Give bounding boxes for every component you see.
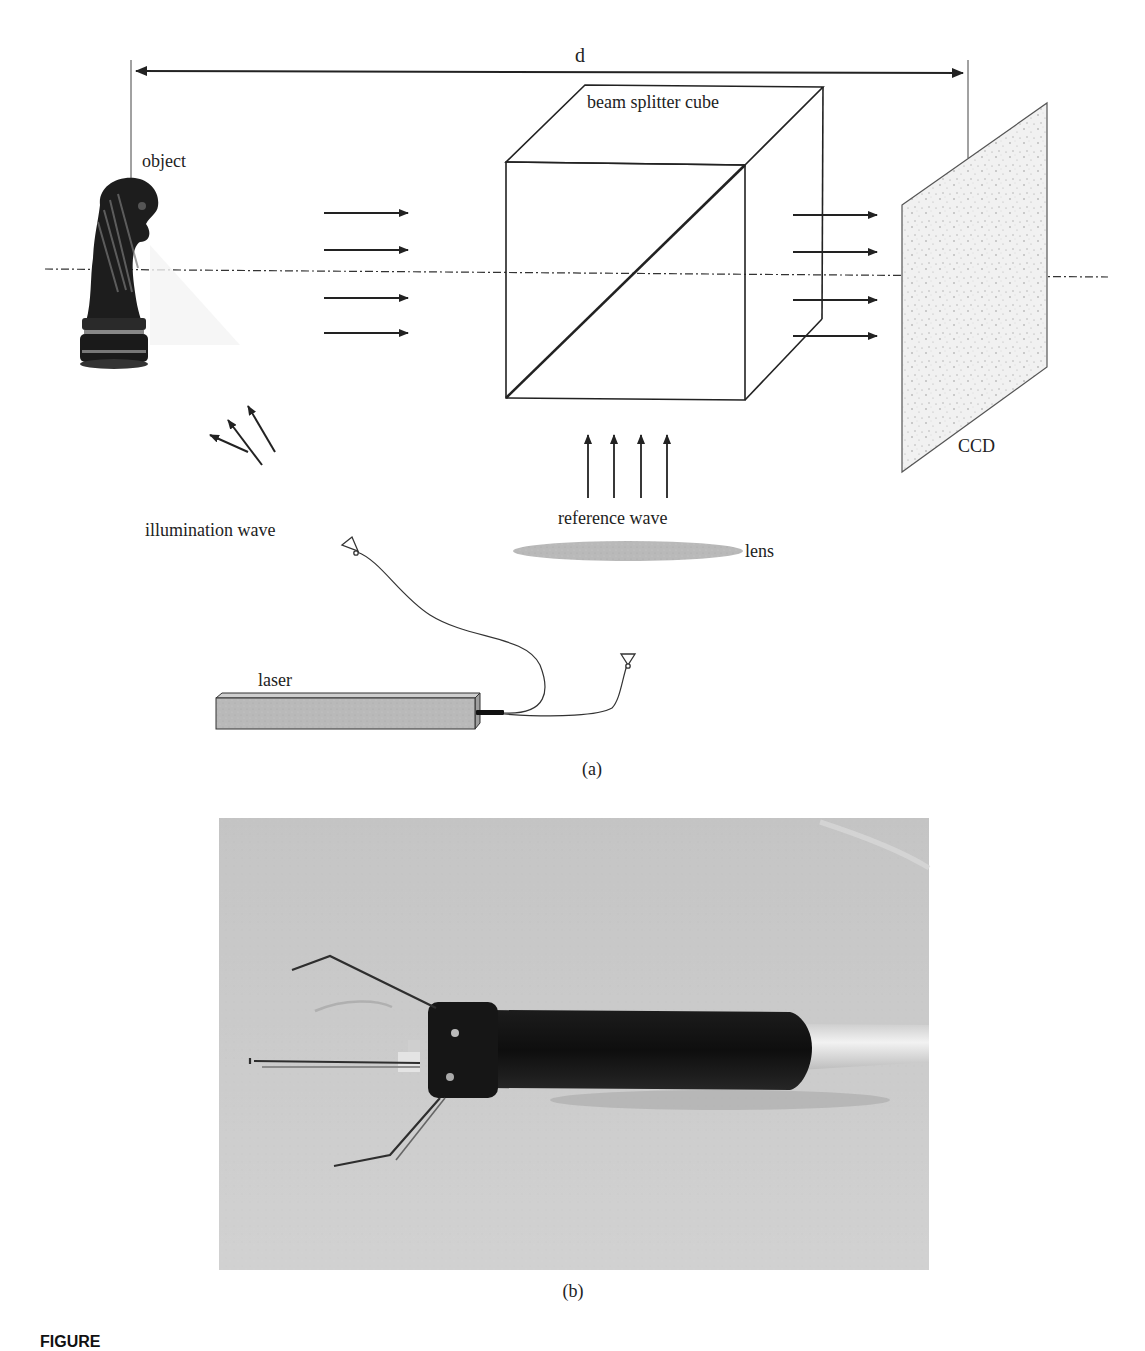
- ccd-sensor: [902, 103, 1047, 472]
- optical-fibres: [357, 552, 627, 716]
- lens: [513, 541, 743, 561]
- probe-cable: [800, 1024, 929, 1070]
- laser-source: [216, 693, 504, 729]
- reference-fibre: [504, 665, 627, 716]
- object-label: object: [142, 151, 186, 171]
- illumination-wave-arrows: [210, 406, 275, 465]
- panel-b-label: (b): [563, 1281, 584, 1302]
- panel-a-diagram: d object: [45, 44, 1108, 729]
- fibre-end-reference-icon: [621, 654, 635, 668]
- object-wave-arrows: [324, 213, 408, 333]
- figure-caption-cutoff: FIGURE: [40, 1333, 100, 1351]
- ccd-label: CCD: [958, 436, 995, 456]
- laser-label: laser: [258, 670, 292, 690]
- lens-label: lens: [745, 541, 774, 561]
- panel-a-label: (a): [582, 759, 602, 780]
- panel-b-photo: [219, 818, 929, 1270]
- distance-label: d: [575, 44, 585, 66]
- chess-knight-object: [80, 178, 240, 369]
- distance-arrow: [136, 71, 963, 73]
- reference-wave-arrows: [588, 435, 667, 498]
- illumination-wave-label: illumination wave: [145, 520, 275, 540]
- beam-splitter-cube: [506, 85, 823, 400]
- fibre-end-illumination-icon: [342, 537, 358, 555]
- reference-wave-label: reference wave: [558, 508, 667, 528]
- beam-splitter-label: beam splitter cube: [587, 92, 719, 112]
- illumination-fibre: [357, 552, 545, 713]
